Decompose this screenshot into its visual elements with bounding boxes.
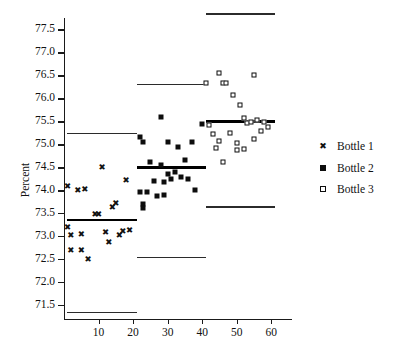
data-point — [227, 130, 232, 135]
y-tick — [58, 144, 64, 145]
x-tick — [271, 319, 272, 324]
data-point — [265, 124, 270, 129]
x-tick — [99, 319, 100, 324]
data-point — [141, 140, 146, 145]
y-tick — [58, 259, 64, 260]
legend-item[interactable]: Bottle 3 — [318, 183, 374, 195]
y-tick-label: 76.5 — [35, 70, 55, 82]
data-point: ✖ — [64, 181, 71, 190]
y-tick — [58, 75, 64, 76]
data-point — [234, 147, 239, 152]
y-tick-label: 75.0 — [35, 139, 55, 151]
data-point: ✖ — [78, 230, 85, 239]
x-glyph: ✖ — [319, 142, 327, 151]
open-square-glyph — [320, 186, 326, 192]
y-tick-label: 74.5 — [35, 162, 55, 174]
data-point: ✖ — [95, 210, 102, 219]
data-point — [217, 138, 222, 143]
data-point — [141, 205, 146, 210]
data-point: ✖ — [67, 231, 74, 240]
legend-label: Bottle 2 — [337, 162, 374, 174]
data-point — [238, 103, 243, 108]
data-point — [207, 123, 212, 128]
y-axis-title: Percent — [19, 163, 31, 197]
y-tick-label: 73.5 — [35, 208, 55, 220]
data-point — [210, 132, 215, 137]
data-point — [234, 141, 239, 146]
data-point — [231, 92, 236, 97]
y-tick — [58, 52, 64, 53]
data-point — [252, 73, 257, 78]
data-point — [158, 114, 163, 119]
y-tick-label: 74.0 — [35, 185, 55, 197]
data-point — [176, 144, 181, 149]
data-point — [162, 192, 167, 197]
x-tick — [133, 319, 134, 324]
y-tick — [58, 282, 64, 283]
upper-control-limit — [206, 13, 275, 14]
upper-control-limit — [137, 84, 206, 85]
x-tick — [168, 319, 169, 324]
y-tick-label: 76.0 — [35, 93, 55, 105]
data-point — [148, 159, 153, 164]
data-point — [220, 159, 225, 164]
data-point — [138, 189, 143, 194]
data-point: ✖ — [112, 199, 119, 208]
data-point: ✖ — [67, 246, 74, 255]
center-line — [67, 219, 136, 222]
center-line — [137, 166, 206, 169]
y-tick — [58, 29, 64, 30]
legend-label: Bottle 1 — [337, 140, 374, 152]
y-tick-label: 72.0 — [35, 276, 55, 288]
data-point — [151, 179, 156, 184]
data-point: ✖ — [85, 255, 92, 264]
filled-square-glyph — [320, 165, 326, 171]
data-point: ✖ — [123, 176, 130, 185]
data-point: ✖ — [102, 227, 109, 236]
x-tick-label: 20 — [127, 327, 139, 339]
data-point — [255, 118, 260, 123]
chart-root: Percent 71.572.072.573.073.574.074.575.0… — [0, 0, 395, 360]
y-axis-line — [64, 18, 65, 320]
lower-control-limit — [137, 257, 206, 258]
data-point: ✖ — [98, 163, 105, 172]
data-point — [182, 158, 187, 163]
data-point — [203, 81, 208, 86]
data-point: ✖ — [126, 226, 133, 235]
data-point — [224, 81, 229, 86]
data-point — [200, 121, 205, 126]
data-point: ✖ — [105, 238, 112, 247]
data-point — [258, 128, 263, 133]
data-point — [252, 136, 257, 141]
open-square-marker-icon — [318, 184, 328, 194]
y-tick — [58, 236, 64, 237]
x-tick-label: 50 — [231, 327, 243, 339]
data-point — [241, 146, 246, 151]
data-point — [169, 176, 174, 181]
x-tick — [202, 319, 203, 324]
data-point: ✖ — [81, 185, 88, 194]
y-tick-label: 72.5 — [35, 254, 55, 266]
legend-item[interactable]: ✖Bottle 1 — [318, 140, 374, 152]
y-tick — [58, 190, 64, 191]
legend-item[interactable]: Bottle 2 — [318, 162, 374, 174]
y-tick — [58, 167, 64, 168]
data-point — [172, 169, 177, 174]
data-point — [214, 146, 219, 151]
data-point — [144, 189, 149, 194]
legend-label: Bottle 3 — [337, 183, 374, 195]
data-point — [186, 176, 191, 181]
y-tick — [58, 121, 64, 122]
upper-control-limit — [67, 133, 136, 134]
data-point — [217, 71, 222, 76]
data-point — [193, 188, 198, 193]
y-tick-label: 71.5 — [35, 299, 55, 311]
y-tick-label: 73.0 — [35, 231, 55, 243]
plot-area: 71.572.072.573.073.574.074.575.075.576.0… — [64, 18, 292, 320]
data-point — [155, 193, 160, 198]
y-tick — [58, 213, 64, 214]
data-point — [248, 120, 253, 125]
x-tick — [237, 319, 238, 324]
data-point — [158, 163, 163, 168]
x-tick-label: 60 — [266, 327, 278, 339]
